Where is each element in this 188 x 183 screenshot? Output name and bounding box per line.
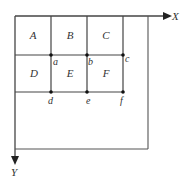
point-label-a: a — [53, 56, 58, 67]
point-label-f: f — [120, 95, 124, 106]
cell-label-e: E — [66, 67, 74, 79]
cell-label-b: B — [67, 29, 74, 41]
point-label-c: c — [125, 53, 130, 64]
x-axis-label: X — [171, 10, 180, 22]
cell-label-f: F — [102, 67, 110, 79]
point-label-d: d — [48, 95, 54, 106]
point-label-b: b — [88, 56, 93, 67]
point-e-dot — [85, 90, 89, 94]
cell-label-c: C — [102, 29, 110, 41]
cell-label-d: D — [29, 67, 38, 79]
x-axis-arrow-icon — [163, 12, 172, 20]
y-axis-label: Y — [11, 166, 19, 178]
grid-diagram: A B C D E F a b c d e f X Y — [0, 0, 188, 183]
cell-label-a: A — [29, 29, 37, 41]
point-label-e: e — [86, 95, 91, 106]
y-axis-arrow-icon — [11, 156, 19, 165]
point-d-dot — [49, 90, 53, 94]
point-f-dot — [121, 90, 125, 94]
